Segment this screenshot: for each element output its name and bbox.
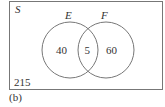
universe-label: S — [15, 3, 21, 15]
set-e-label: E — [64, 9, 72, 21]
intersection-count: 5 — [85, 44, 91, 56]
f-only-count: 60 — [106, 44, 118, 56]
set-f-label: F — [100, 9, 108, 21]
e-only-count: 40 — [56, 44, 68, 56]
outside-count: 215 — [14, 76, 31, 88]
figure-caption: (b) — [9, 91, 22, 103]
venn-diagram: S E F 40 5 60 215 — [0, 0, 165, 107]
